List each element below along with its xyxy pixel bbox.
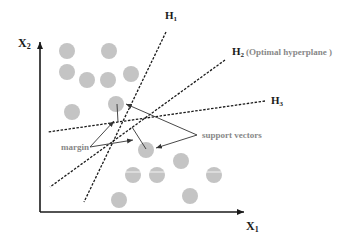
- hyperplane-h3: [48, 101, 265, 132]
- y-axis-label: X2: [18, 36, 31, 51]
- data-point: [59, 43, 75, 59]
- data-point: [111, 192, 127, 208]
- sv-arrow: [156, 135, 197, 148]
- support-vectors-label: support vectors: [202, 130, 262, 140]
- margin-label: margin: [61, 142, 89, 152]
- hyperplane-h2: [50, 60, 225, 187]
- data-point: [173, 153, 189, 169]
- margin-line: [132, 127, 146, 149]
- data-point: [100, 72, 116, 88]
- support-vector-arrows: [126, 104, 197, 148]
- h1-label: H1: [165, 9, 178, 23]
- class-b-points: [111, 142, 222, 208]
- support-vector-b: [138, 142, 154, 158]
- svm-diagram: X2 X1 H1 H2 (Optimal hyperplane ) H3 mar…: [0, 0, 346, 240]
- class-a-points: [59, 43, 139, 120]
- data-point: [123, 66, 139, 82]
- x-axis-label: X1: [246, 219, 259, 234]
- h3-label: H3: [271, 94, 284, 108]
- data-point: [125, 167, 141, 183]
- data-point: [59, 64, 75, 80]
- support-vector-a: [108, 96, 124, 112]
- data-point: [182, 188, 198, 204]
- data-point: [79, 72, 95, 88]
- data-point: [101, 43, 117, 59]
- data-point: [149, 167, 165, 183]
- h2-label: H2: [232, 45, 245, 59]
- h2-note: (Optimal hyperplane ): [246, 47, 332, 57]
- data-point: [206, 167, 222, 183]
- data-point: [64, 104, 80, 120]
